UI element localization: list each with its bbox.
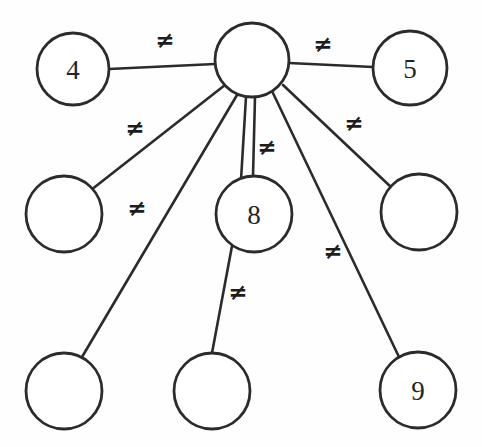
edge-hub-to-8-left[interactable] [241, 97, 246, 180]
nodes-layer: 4589 [26, 23, 457, 429]
node-5-label: 5 [403, 54, 417, 84]
edge-hub-to-mid-left[interactable] [91, 85, 225, 190]
constraint-graph-canvas: 4589 ≠≠≠≠≠≠≠≠ [0, 0, 482, 447]
edge-hub-to-mid-right-label: ≠ [344, 110, 363, 136]
node-9-label: 9 [411, 376, 425, 406]
edge-hub-to-bottom-left-label: ≠ [127, 195, 146, 221]
node-5[interactable]: 5 [373, 31, 447, 105]
graph-svg: 4589 ≠≠≠≠≠≠≠≠ [0, 0, 482, 447]
node-4[interactable]: 4 [37, 33, 109, 105]
node-bottom-left[interactable] [26, 353, 102, 429]
edge-hub-to-mid-right[interactable] [283, 85, 392, 188]
edge-hub-to-5[interactable] [289, 63, 373, 67]
node-mid-right-circle[interactable] [381, 174, 457, 250]
node-8-label: 8 [247, 200, 261, 230]
node-mid-left-circle[interactable] [26, 176, 102, 252]
edge-hub-to-8-right[interactable] [253, 97, 255, 176]
edge-hub-to-mid-left-label: ≠ [125, 115, 144, 141]
edge-hub-to-9-label: ≠ [323, 238, 342, 264]
edge-hub-to-4[interactable] [109, 64, 215, 69]
node-hub[interactable] [215, 23, 289, 97]
edge-8-to-bottom-mid-label: ≠ [228, 279, 247, 305]
node-mid-right[interactable] [381, 174, 457, 250]
edge-hub-to-5-label: ≠ [313, 31, 332, 57]
node-9[interactable]: 9 [380, 352, 456, 428]
node-bottom-mid-circle[interactable] [174, 353, 250, 429]
node-hub-circle[interactable] [215, 23, 289, 97]
node-8[interactable]: 8 [216, 176, 292, 252]
edge-hub-to-4-label: ≠ [155, 27, 174, 53]
node-4-label: 4 [66, 55, 80, 85]
edge-hub-to-bottom-left[interactable] [82, 95, 237, 357]
node-bottom-left-circle[interactable] [26, 353, 102, 429]
edge-hub-to-8-right-label: ≠ [257, 134, 276, 160]
node-bottom-mid[interactable] [174, 353, 250, 429]
node-mid-left[interactable] [26, 176, 102, 252]
